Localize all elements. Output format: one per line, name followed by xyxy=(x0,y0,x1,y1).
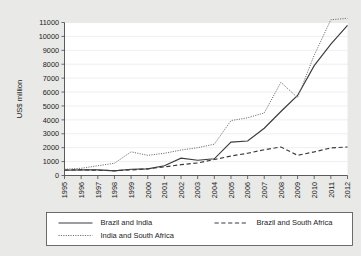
legend-box xyxy=(47,213,353,246)
x-axis-tick-label: 2007 xyxy=(260,182,269,198)
y-axis-tick-label: 8000 xyxy=(43,60,59,69)
y-axis-tick-label: 10000 xyxy=(39,32,59,41)
x-axis-tick-label: 2009 xyxy=(293,182,302,198)
x-axis-tick-label: 2000 xyxy=(144,182,153,198)
x-axis-tick-label: 2002 xyxy=(177,182,186,198)
y-axis-tick-label: 6000 xyxy=(43,88,59,97)
y-axis-tick-label: 0 xyxy=(55,171,59,180)
x-axis-tick-label: 2008 xyxy=(277,182,286,198)
x-axis-tick-label: 2005 xyxy=(227,182,236,198)
y-axis-tick-label: 11000 xyxy=(39,18,59,27)
x-axis-tick-label: 1998 xyxy=(110,182,119,198)
x-axis-tick-label: 2004 xyxy=(210,182,219,198)
y-axis-tick-label: 1000 xyxy=(43,157,59,166)
line-chart: 0100020003000400050006000700080009000100… xyxy=(0,0,361,256)
y-axis-tick-label: 7000 xyxy=(43,74,59,83)
x-axis-tick-label: 1996 xyxy=(77,182,86,198)
x-axis-tick-label: 1999 xyxy=(127,182,136,198)
legend-label: India and South Africa xyxy=(101,231,175,240)
chart-figure: 0100020003000400050006000700080009000100… xyxy=(0,0,361,256)
y-axis-tick-label: 9000 xyxy=(43,46,59,55)
x-axis-tick-label: 2012 xyxy=(343,182,352,198)
x-axis-tick-label: 1997 xyxy=(94,182,103,198)
x-axis-tick-label: 2001 xyxy=(160,182,169,198)
x-axis-tick-label: 2006 xyxy=(243,182,252,198)
plot-area-background xyxy=(65,23,348,176)
x-axis-tick-label: 2010 xyxy=(310,182,319,198)
y-axis-tick-label: 2000 xyxy=(43,143,59,152)
y-axis-title: US$ million xyxy=(15,80,24,118)
y-axis-tick-label: 3000 xyxy=(43,129,59,138)
x-axis-tick-label: 2003 xyxy=(193,182,202,198)
legend-label: Brazil and India xyxy=(101,218,154,227)
y-axis-tick-label: 4000 xyxy=(43,116,59,125)
y-axis-tick-label: 5000 xyxy=(43,102,59,111)
x-axis-tick-label: 1995 xyxy=(60,182,69,198)
x-axis-tick-label: 2011 xyxy=(327,182,336,198)
legend-label: Brazil and South Africa xyxy=(257,218,334,227)
